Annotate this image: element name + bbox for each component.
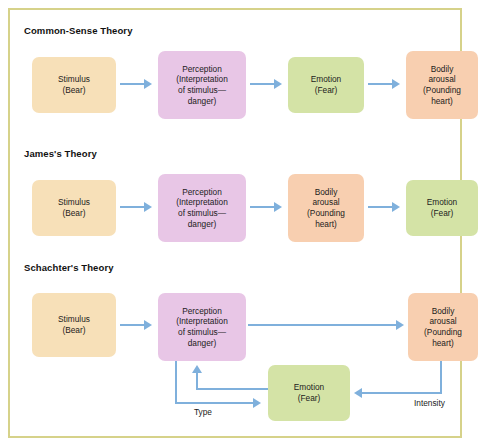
arrow-head-right-icon (396, 320, 404, 330)
arrow-shaft (175, 402, 255, 404)
node-label: Perception (Interpretation of stimulus— … (176, 187, 228, 229)
arrow-head-right-icon (392, 79, 400, 89)
section-title-schachter: Schachter's Theory (24, 262, 114, 273)
arrow-head-right-icon (144, 202, 152, 212)
arrow-head-right-icon (274, 79, 282, 89)
arrow-head-left-icon (354, 388, 362, 398)
node-label: Stimulus (Bear) (58, 74, 90, 95)
arrow-shaft (250, 206, 276, 208)
arrow-head-right-icon (392, 202, 400, 212)
arrow-shaft (248, 324, 398, 326)
node-perception-james: Perception (Interpretation of stimulus— … (158, 174, 246, 242)
node-label: Perception (Interpretation of stimulus— … (176, 306, 228, 348)
node-stimulus-james: Stimulus (Bear) (32, 180, 116, 236)
node-label: Bodily arousal (Pounding heart) (424, 306, 462, 348)
node-label: Stimulus (Bear) (58, 197, 90, 218)
figure-frame: Common-Sense Theory Stimulus (Bear) Perc… (8, 8, 462, 438)
node-emotion-common-sense: Emotion (Fear) (288, 57, 364, 113)
node-label: Perception (Interpretation of stimulus— … (176, 64, 228, 106)
node-arousal-common-sense: Bodily arousal (Pounding heart) (406, 51, 478, 119)
node-stimulus-schachter: Stimulus (Bear) (32, 293, 116, 357)
node-label: Bodily arousal (Pounding heart) (307, 187, 345, 229)
arrow-shaft (175, 361, 177, 404)
arrow-head-up-icon (192, 365, 202, 373)
arrow-shaft (368, 206, 394, 208)
arrow-shaft (120, 324, 146, 326)
section-title-james: James's Theory (24, 148, 97, 159)
node-arousal-schachter: Bodily arousal (Pounding heart) (408, 293, 478, 361)
node-emotion-james: Emotion (Fear) (406, 180, 478, 236)
edge-label-type: Type (194, 407, 212, 417)
node-perception-common-sense: Perception (Interpretation of stimulus— … (158, 51, 246, 119)
arrow-shaft (440, 361, 442, 394)
arrow-shaft (120, 83, 146, 85)
arrow-shaft (196, 388, 268, 390)
node-arousal-james: Bodily arousal (Pounding heart) (288, 174, 364, 242)
arrow-shaft (368, 83, 394, 85)
arrow-head-right-icon (144, 320, 152, 330)
node-stimulus-common-sense: Stimulus (Bear) (32, 57, 116, 113)
node-label: Emotion (Fear) (311, 74, 341, 95)
node-label: Emotion (Fear) (427, 197, 457, 218)
arrow-head-right-icon (144, 79, 152, 89)
arrow-head-right-icon (253, 398, 261, 408)
arrow-shaft (362, 392, 442, 394)
figure-inner: Common-Sense Theory Stimulus (Bear) Perc… (10, 10, 460, 436)
arrow-shaft (196, 373, 198, 390)
node-label: Stimulus (Bear) (58, 314, 90, 335)
arrow-shaft (120, 206, 146, 208)
arrow-head-right-icon (274, 202, 282, 212)
section-title-common-sense: Common-Sense Theory (24, 25, 133, 36)
node-emotion-schachter: Emotion (Fear) (268, 365, 350, 421)
node-label: Emotion (Fear) (294, 382, 324, 403)
node-perception-schachter: Perception (Interpretation of stimulus— … (158, 293, 246, 361)
arrow-shaft (250, 83, 276, 85)
node-label: Bodily arousal (Pounding heart) (423, 64, 461, 106)
edge-label-intensity: Intensity (414, 398, 445, 408)
